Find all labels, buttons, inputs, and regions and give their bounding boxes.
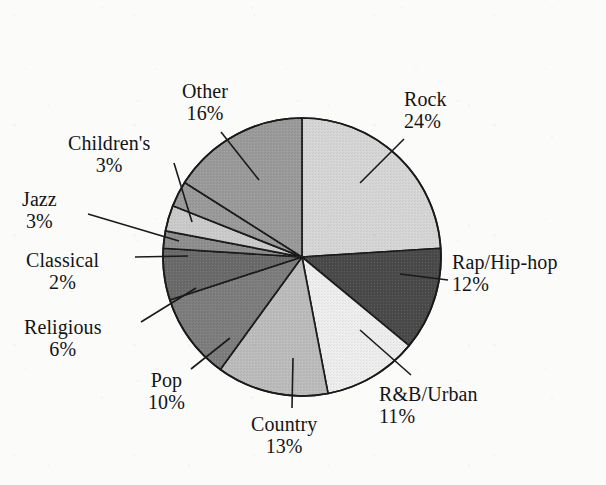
pie-slice-texture <box>163 118 441 396</box>
leader-line-country <box>292 358 293 408</box>
pie-label-name-country: Country <box>251 413 317 435</box>
pie-label-name-rock: Rock <box>404 88 447 110</box>
pie-slice-texture-0 <box>302 118 441 257</box>
pie-chart-figure: Rock24%Rap/Hip-hop12%R&B/Urban11%Country… <box>0 0 606 485</box>
pie-label-rap-hip-hop: Rap/Hip-hop12% <box>452 251 558 296</box>
pie-label-name-r-b-urban: R&B/Urban <box>379 383 478 405</box>
pie-label-value-pop: 10% <box>148 391 185 413</box>
pie-label-r-b-urban: R&B/Urban11% <box>379 383 478 428</box>
pie-label-value-classical: 2% <box>26 271 99 293</box>
pie-label-value-children-s: 3% <box>68 154 150 176</box>
pie-label-name-classical: Classical <box>26 249 99 271</box>
pie-label-jazz: Jazz3% <box>22 188 57 233</box>
pie-label-country: Country13% <box>251 413 317 458</box>
pie-label-other: Other16% <box>182 80 228 125</box>
pie-label-religious: Religious6% <box>24 316 102 361</box>
pie-label-value-rock: 24% <box>404 110 447 132</box>
pie-label-value-r-b-urban: 11% <box>379 405 478 427</box>
pie-label-name-religious: Religious <box>24 316 102 338</box>
pie-label-value-religious: 6% <box>24 338 102 360</box>
leader-line-classical <box>135 256 188 257</box>
pie-label-pop: Pop10% <box>148 369 185 414</box>
pie-label-name-rap-hip-hop: Rap/Hip-hop <box>452 251 558 273</box>
pie-label-name-children-s: Children's <box>68 132 150 154</box>
pie-label-value-jazz: 3% <box>22 210 57 232</box>
pie-label-classical: Classical2% <box>26 249 99 294</box>
pie-label-name-other: Other <box>182 80 228 102</box>
pie-label-children-s: Children's3% <box>68 132 150 177</box>
pie-label-value-country: 13% <box>251 435 317 457</box>
pie-label-name-pop: Pop <box>148 369 185 391</box>
pie-label-name-jazz: Jazz <box>22 188 57 210</box>
pie-label-rock: Rock24% <box>404 88 447 133</box>
pie-label-value-rap-hip-hop: 12% <box>452 273 558 295</box>
pie-label-value-other: 16% <box>182 102 228 124</box>
